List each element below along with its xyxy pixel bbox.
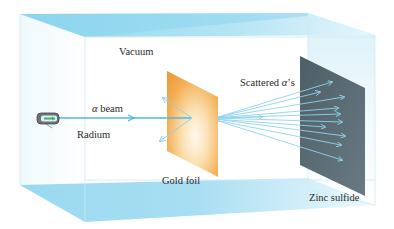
gold-foil-label: Gold foil [162,176,200,187]
gold-foil [167,71,218,177]
scattered-alphas-label: Scattered α’s [240,78,295,89]
rutherford-diagram: Vacuum α beam Radium Gold foil Scattered… [0,0,394,229]
radium-label: Radium [77,130,110,141]
zinc-sulfide-label: Zinc sulfide [309,193,359,204]
vacuum-label: Vacuum [119,47,153,58]
alpha-beam-label: α beam [92,104,123,115]
